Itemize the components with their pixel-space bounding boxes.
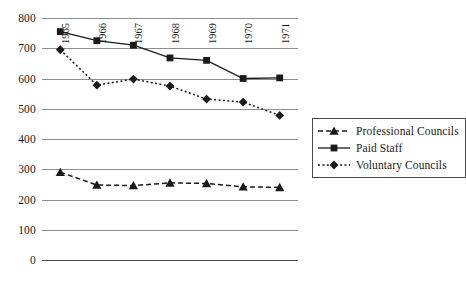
data-point-1966 — [93, 37, 100, 44]
data-point-1967 — [130, 42, 137, 49]
series-paid-staff — [57, 28, 283, 82]
data-point-1969 — [202, 95, 211, 104]
series-professional-councils — [56, 168, 285, 191]
legend-item-professional-councils[interactable]: Professional Councils — [317, 122, 459, 139]
data-point-1969 — [203, 57, 210, 64]
legend-label: Paid Staff — [356, 142, 402, 154]
y-tick-label-400: 400 — [18, 133, 36, 145]
data-point-1965 — [57, 28, 64, 35]
y-tick-label-0: 0 — [30, 254, 36, 266]
y-tick-label-500: 500 — [18, 103, 36, 115]
legend-item-paid-staff[interactable]: Paid Staff — [317, 139, 459, 156]
y-tick-label-200: 200 — [18, 194, 36, 206]
data-point-1971 — [276, 74, 283, 81]
y-tick-label-700: 700 — [18, 42, 36, 54]
legend-swatch-triangle-icon — [317, 124, 351, 138]
plot-area: 0100200300400500600700800 19651966196719… — [42, 18, 298, 260]
legend-swatch-square-icon — [317, 141, 351, 155]
legend-label: Professional Councils — [356, 125, 459, 137]
data-point-1966 — [92, 81, 101, 90]
legend-label: Voluntary Councils — [356, 159, 447, 171]
y-tick-label-600: 600 — [18, 73, 36, 85]
series-layer — [42, 18, 298, 260]
data-point-1970 — [240, 75, 247, 82]
chart-legend: Professional CouncilsPaid StaffVoluntary… — [312, 118, 466, 178]
data-point-1971 — [275, 111, 284, 120]
y-tick-label-100: 100 — [18, 224, 36, 236]
data-point-1967 — [129, 75, 138, 84]
data-point-1968 — [166, 82, 175, 91]
data-point-1970 — [239, 98, 248, 107]
legend-item-voluntary-councils[interactable]: Voluntary Councils — [317, 156, 459, 173]
data-point-1965 — [56, 45, 65, 54]
legend-swatch-diamond-icon — [317, 158, 351, 172]
data-point-1968 — [167, 55, 174, 62]
y-tick-label-800: 800 — [18, 12, 36, 24]
y-tick-label-300: 300 — [18, 163, 36, 175]
gridline-0 — [42, 260, 298, 261]
data-point-1965 — [56, 168, 65, 176]
